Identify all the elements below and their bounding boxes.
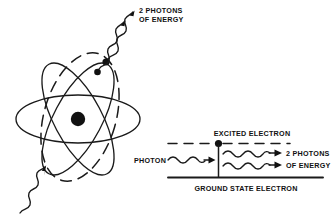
ground-state-electron-label: GROUND STATE ELECTRON	[194, 184, 297, 193]
atom-photons-label-line2: OF ENERGY	[139, 15, 184, 24]
atom-photons-label-line1: 2 PHOTONS	[139, 6, 183, 15]
excited-electron-label: EXCITED ELECTRON	[214, 129, 291, 138]
stimulated-emission-figure: 2 PHOTONS OF ENERGY	[0, 0, 334, 220]
emitted-photons-label-line2: OF ENERGY	[286, 161, 331, 170]
figure-canvas: 2 PHOTONS OF ENERGY	[0, 0, 334, 220]
atom-electron-lower	[94, 69, 101, 76]
photon-incoming-label: PHOTON	[134, 156, 166, 165]
atom-nucleus	[71, 112, 85, 126]
emitted-photons-label-line1: 2 PHOTONS	[286, 149, 330, 158]
